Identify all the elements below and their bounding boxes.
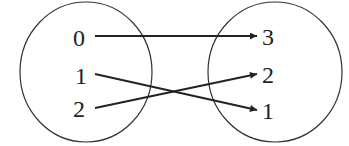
codomain-element-1: 1 [262, 98, 274, 124]
codomain-set: 3 2 1 [208, 2, 342, 142]
domain-element-1: 1 [75, 63, 87, 89]
codomain-element-3: 3 [262, 24, 274, 50]
mapping-diagram: 0 1 2 3 2 1 [0, 0, 349, 146]
domain-set: 0 1 2 [20, 2, 152, 142]
codomain-element-2: 2 [262, 62, 274, 88]
domain-element-2: 2 [73, 96, 85, 122]
domain-element-0: 0 [73, 25, 85, 51]
mapping-arrows [95, 36, 257, 110]
codomain-circle [208, 2, 342, 142]
